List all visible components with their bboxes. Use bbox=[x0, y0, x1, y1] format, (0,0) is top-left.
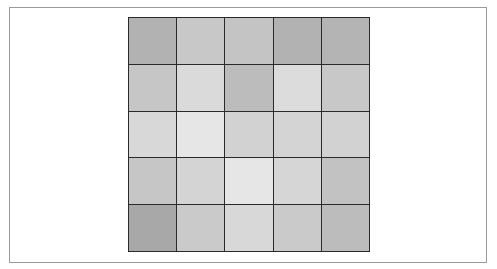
grid-cell-r2-c4 bbox=[322, 112, 369, 158]
grid-cell-r3-c1 bbox=[177, 158, 224, 204]
grid-cell-r3-c3 bbox=[274, 158, 321, 204]
grid-cell-r2-c2 bbox=[225, 112, 272, 158]
grid-cell-r1-c4 bbox=[322, 65, 369, 111]
grid-cell-r4-c2 bbox=[225, 205, 272, 251]
grid-cell-r4-c4 bbox=[322, 205, 369, 251]
grid-cell-r0-c1 bbox=[177, 18, 224, 64]
grid-cell-r0-c3 bbox=[274, 18, 321, 64]
shade-grid bbox=[128, 17, 370, 252]
grid-cell-r1-c3 bbox=[274, 65, 321, 111]
grid-cell-r2-c3 bbox=[274, 112, 321, 158]
grid-cell-r2-c1 bbox=[177, 112, 224, 158]
grid-cell-r2-c0 bbox=[129, 112, 176, 158]
grid-cell-r0-c2 bbox=[225, 18, 272, 64]
grid-cell-r3-c4 bbox=[322, 158, 369, 204]
grid-cell-r1-c1 bbox=[177, 65, 224, 111]
grid-cell-r3-c2 bbox=[225, 158, 272, 204]
grid-cell-r4-c1 bbox=[177, 205, 224, 251]
grid-cell-r4-c0 bbox=[129, 205, 176, 251]
grid-cell-r0-c0 bbox=[129, 18, 176, 64]
grid-cell-r0-c4 bbox=[322, 18, 369, 64]
grid-cell-r3-c0 bbox=[129, 158, 176, 204]
grid-cell-r1-c0 bbox=[129, 65, 176, 111]
grid-cell-r4-c3 bbox=[274, 205, 321, 251]
grid-cell-r1-c2 bbox=[225, 65, 272, 111]
